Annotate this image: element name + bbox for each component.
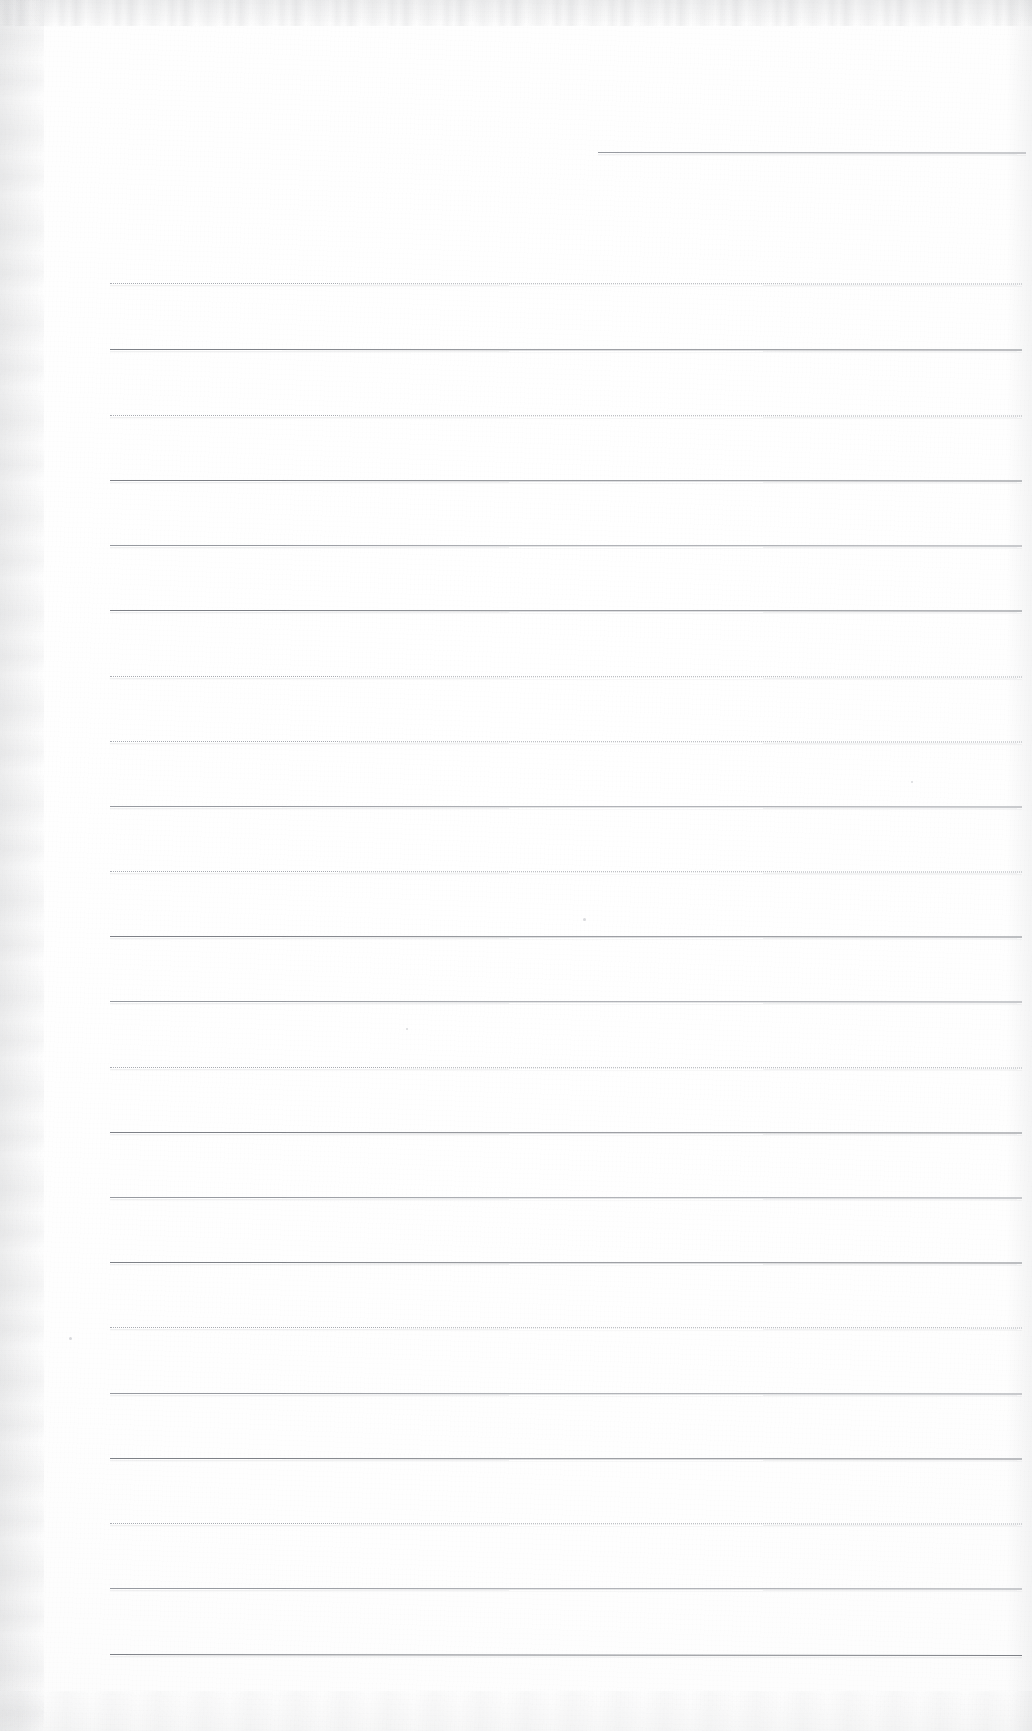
paper-background <box>0 0 1032 1731</box>
scanned-page <box>0 0 1032 1731</box>
